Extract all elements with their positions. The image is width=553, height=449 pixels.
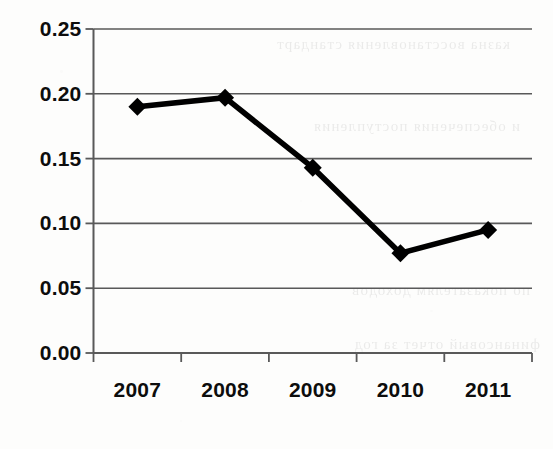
data-point-marker-group <box>128 89 497 263</box>
x-axis-tick-label: 2009 <box>289 378 337 402</box>
y-axis-tick-label: 0.25 <box>2 17 82 41</box>
x-axis-tick-label: 2011 <box>465 378 511 402</box>
x-axis-tick-label: 2007 <box>114 378 162 402</box>
x-axis-tick-label: 2010 <box>377 378 425 402</box>
y-axis-tick-label: 0.00 <box>2 341 82 365</box>
line-chart-figure: казна восстановления стандарт и обеспече… <box>0 0 553 449</box>
y-axis-tick-label: 0.15 <box>2 147 82 171</box>
y-axis-tick-label: 0.05 <box>2 276 82 300</box>
y-axis-tick-label: 0.20 <box>2 82 82 106</box>
x-axis-tick-label: 2008 <box>201 378 249 402</box>
gridline-group <box>94 29 533 353</box>
x-tick-group <box>86 29 533 362</box>
y-axis-tick-label: 0.10 <box>2 211 82 235</box>
data-point-marker <box>128 98 146 116</box>
